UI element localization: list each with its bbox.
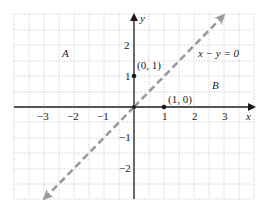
x-tick-label: −1 xyxy=(97,110,109,122)
origin-point xyxy=(132,105,136,109)
x-tick-label: −2 xyxy=(67,110,79,122)
x-axis-label: x xyxy=(245,110,251,122)
x-tick-label: 1 xyxy=(162,110,168,122)
region-label-a: A xyxy=(61,47,69,59)
y-tick-label: 2 xyxy=(124,39,130,51)
y-tick-label: 1 xyxy=(125,70,131,82)
point-1-0 xyxy=(162,105,167,110)
coordinate-plane: y x −3 −2 −1 1 2 3 2 1 −1 −2 (0, 1) (1, … xyxy=(0,0,268,212)
point-label-1-0: (1, 0) xyxy=(168,93,192,106)
y-tick-label: −1 xyxy=(119,131,131,143)
x-tick-label: −3 xyxy=(37,110,49,122)
x-tick-label: 3 xyxy=(222,110,228,122)
y-tick-label: −2 xyxy=(119,162,131,174)
point-label-0-1: (0, 1) xyxy=(137,59,161,72)
equation-label: x − y = 0 xyxy=(197,47,240,59)
point-0-1 xyxy=(132,74,137,79)
region-label-b: B xyxy=(212,79,219,91)
x-tick-label: 2 xyxy=(192,110,198,122)
y-axis-label: y xyxy=(139,12,145,24)
